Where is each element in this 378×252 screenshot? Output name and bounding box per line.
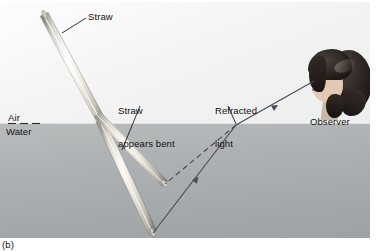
refracted-light-line1: Refracted	[215, 105, 257, 116]
straw-appears-bent-line1: Straw	[118, 105, 175, 116]
refracted-light-label: Refracted light	[215, 83, 257, 171]
figure-caption: (b)	[2, 239, 14, 250]
straw-leader-line	[62, 18, 86, 33]
refracted-light-line2: light	[215, 138, 257, 149]
illustration-panel: Air Water Straw Straw appears bent Refra…	[0, 2, 370, 238]
refracted-ray-arrow	[271, 102, 280, 111]
straw-label: Straw	[88, 11, 113, 22]
refraction-figure: Air Water Straw Straw appears bent Refra…	[0, 0, 378, 252]
straw-appears-bent-label: Straw appears bent	[118, 83, 175, 171]
air-label: Air	[8, 112, 20, 123]
water-label: Water	[6, 126, 31, 137]
straw-appears-bent-line2: appears bent	[118, 138, 175, 149]
observer-label: Observer	[310, 116, 350, 127]
straw-actual-above-water	[40, 10, 108, 129]
